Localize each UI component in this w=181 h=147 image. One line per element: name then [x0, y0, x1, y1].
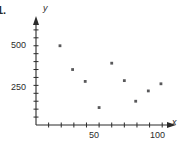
y-tick-label-250: 250: [11, 82, 26, 92]
data-point: [123, 79, 126, 82]
data-point: [84, 80, 87, 83]
x-axis-label: x: [172, 117, 177, 127]
scatter-plot-figure: 1. y x 500 250 50 100: [0, 0, 181, 147]
data-points: [59, 44, 163, 109]
axes: [33, 16, 176, 128]
y-axis-label: y: [43, 3, 48, 13]
data-point: [147, 90, 150, 93]
data-point: [110, 62, 113, 65]
data-point: [160, 82, 163, 85]
data-point: [98, 106, 101, 109]
data-point: [59, 44, 62, 47]
x-tick-label-100: 100: [150, 130, 165, 140]
x-tick-label-50: 50: [89, 130, 99, 140]
data-point: [71, 68, 74, 71]
data-point: [134, 100, 137, 103]
plot-canvas: [0, 0, 181, 147]
y-axis-arrowhead: [33, 16, 39, 25]
y-tick-label-500: 500: [11, 40, 26, 50]
